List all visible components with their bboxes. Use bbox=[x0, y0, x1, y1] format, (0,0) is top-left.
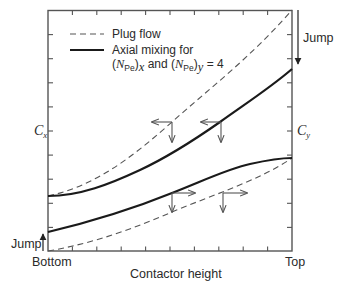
legend-plug-flow-label: Plug flow bbox=[112, 27, 161, 41]
x-axis-top-label: Top bbox=[285, 255, 305, 269]
right-axis-label: Cy bbox=[297, 123, 310, 140]
jump-bottom-label: Jump bbox=[11, 237, 42, 251]
jump-top-label: Jump bbox=[303, 31, 334, 45]
x-axis-bottom-label: Bottom bbox=[32, 255, 72, 269]
legend-axial-line1: Axial mixing for bbox=[112, 43, 224, 57]
driving-force-arrows-lower bbox=[172, 193, 247, 212]
x-axis-title: Contactor height bbox=[130, 267, 222, 281]
plug-flow-x-curve bbox=[48, 10, 292, 196]
axial-mixing-y-curve bbox=[48, 158, 292, 232]
left-axis-label: Cx bbox=[34, 123, 47, 140]
legend-axial-line2: (NPe)x and (NPe)y = 4 bbox=[112, 57, 224, 75]
driving-force-arrows-upper bbox=[152, 122, 221, 142]
axial-mixing-x-curve bbox=[48, 69, 292, 196]
legend-axial-mixing-label: Axial mixing for (NPe)x and (NPe)y = 4 bbox=[112, 43, 224, 75]
plug-flow-y-curve bbox=[48, 158, 292, 251]
